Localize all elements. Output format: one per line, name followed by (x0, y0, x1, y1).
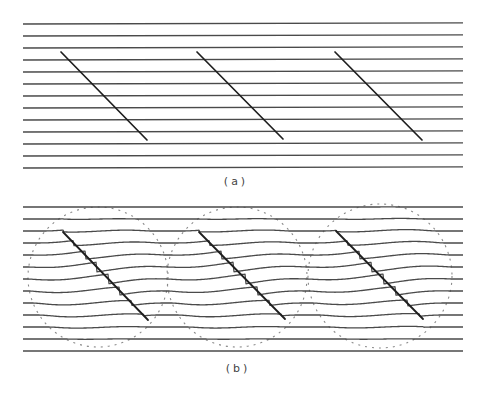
horizontal-line (23, 119, 463, 120)
diagonal-line (335, 52, 422, 140)
horizontal-line (23, 107, 463, 108)
figure-b-warped-lines (23, 204, 463, 351)
caption-b: (b) (226, 362, 251, 375)
horizontal-line (23, 23, 463, 24)
figure-b-warped-horizontal-lines (23, 207, 463, 351)
horizontal-line (23, 59, 463, 60)
horizontal-line (23, 131, 463, 132)
warped-line (23, 230, 463, 232)
figure-a-horizontal-lines (23, 23, 463, 168)
illusion-figure (0, 0, 485, 393)
horizontal-line (23, 155, 463, 156)
warped-line (23, 326, 463, 328)
diagonal-line (63, 232, 148, 320)
horizontal-line (23, 95, 463, 96)
warped-line (23, 262, 463, 272)
horizontal-line (23, 143, 463, 144)
dashed-circle (167, 207, 307, 347)
horizontal-line (23, 167, 463, 168)
horizontal-line (23, 47, 463, 48)
horizontal-line (23, 71, 463, 72)
dashed-circle (28, 207, 168, 347)
warped-line (23, 241, 463, 246)
horizontal-line (23, 83, 463, 84)
horizontal-line (23, 35, 463, 36)
warped-line (23, 300, 463, 306)
warped-line (23, 218, 463, 219)
caption-a: (a) (224, 175, 248, 188)
warped-line (23, 314, 463, 317)
figure-a-straight-lines (23, 23, 463, 168)
diagonal-line (199, 232, 285, 319)
